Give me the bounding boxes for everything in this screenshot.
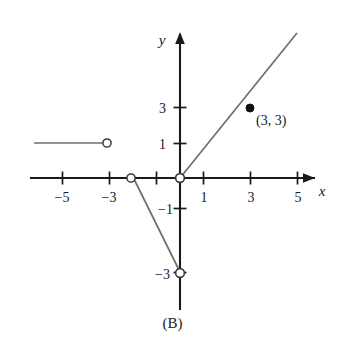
function-curves [34,33,297,272]
x-tick-label-5: 5 [295,190,302,205]
piecewise-function-graph: y x −5 −3 1 3 5 3 1 −1 −3 (3, 3) [0,0,345,338]
open-point-minus2-1 [103,139,111,147]
x-axis-name: x [318,183,326,199]
y-tick-labels: 3 1 −1 −3 [155,101,173,282]
rising-branch-ray [180,33,297,178]
x-axis-arrowhead [303,173,315,183]
y-axis-name: y [157,32,166,48]
point-annotation-3-3: (3, 3) [256,113,287,129]
x-tick-label--5: −5 [55,190,70,205]
y-tick-label--1: −1 [158,202,173,217]
open-point-origin [176,174,185,183]
x-tick-label-3: 3 [248,190,255,205]
open-point-minus2-0 [127,174,135,182]
y-tick-label--3: −3 [155,267,170,282]
y-axis-arrowhead [175,32,185,44]
axes-group [30,32,315,310]
x-tick-labels: −5 −3 1 3 5 [55,190,302,205]
y-tick-label-3: 3 [159,101,166,116]
endpoint-markers [103,104,254,277]
descending-branch-segment [134,178,181,272]
x-tick-label--3: −3 [102,190,117,205]
x-tick-label-1: 1 [201,190,208,205]
y-tick-label-1: 1 [159,137,166,152]
figure-caption: (B) [0,315,345,332]
open-point-0-minus3 [176,269,185,278]
filled-point-3-3 [246,104,254,112]
figure-panel-b: y x −5 −3 1 3 5 3 1 −1 −3 (3, 3) (B) [0,0,345,338]
